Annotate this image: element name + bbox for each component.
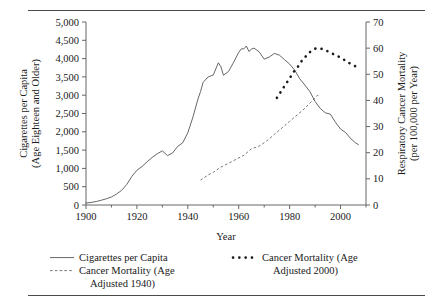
- legend-label: Cancer Mortality (Age: [262, 252, 358, 264]
- y-tick-label: 3,500: [55, 72, 79, 83]
- series-solid: [86, 46, 358, 203]
- series-dashed: [201, 95, 321, 180]
- y-tick-label: 1,000: [55, 163, 79, 174]
- legend-label: Cancer Mortality (Age: [79, 265, 175, 277]
- y2-tick-label: 50: [373, 69, 384, 80]
- x-tick-label: 2000: [330, 211, 351, 222]
- y2-tick-label: 70: [373, 17, 384, 28]
- y2-tick-label: 0: [373, 200, 378, 211]
- x-tick-label: 1900: [76, 211, 97, 222]
- legend-label-line2: Adjusted 2000): [273, 265, 339, 277]
- chart-series: [86, 46, 358, 203]
- y2-axis-title-line1: Respiratory Cancer Mortality: [396, 51, 407, 175]
- y-tick-label: 4,500: [55, 35, 79, 46]
- y-axis-title-line1: Cigarettes per Capita: [18, 69, 29, 158]
- y-tick-label: 1,500: [55, 145, 79, 156]
- legend-entry[interactable]: Cancer Mortality (AgeAdjusted 2000): [233, 252, 358, 277]
- x-tick-label: 1980: [279, 211, 300, 222]
- y2-axis-title-line2: (per 100,000 per Year): [408, 66, 420, 161]
- y-tick-label: 0: [74, 200, 79, 211]
- legend-entry[interactable]: Cancer Mortality (AgeAdjusted 1940): [50, 265, 175, 290]
- x-axis-title: Year: [216, 231, 236, 242]
- chart-axes: [86, 22, 366, 205]
- chart-legend: Cigarettes per CapitaCancer Mortality (A…: [50, 252, 358, 290]
- y-tick-label: 2,500: [55, 108, 79, 119]
- chart-tick-labels: 05001,0001,5002,0002,5003,0003,5004,0004…: [55, 17, 383, 222]
- y2-axis-title: Respiratory Cancer Mortality (per 100,00…: [396, 51, 420, 175]
- y2-tick-label: 60: [373, 43, 384, 54]
- y-tick-label: 500: [63, 181, 79, 192]
- series-dotted: [277, 48, 358, 98]
- legend-label-line2: Adjusted 1940): [90, 278, 156, 290]
- y2-tick-label: 20: [373, 147, 384, 158]
- legend-entry[interactable]: Cigarettes per Capita: [50, 252, 168, 263]
- y-tick-label: 5,000: [55, 17, 79, 28]
- line-chart: 05001,0001,5002,0002,5003,0003,5004,0004…: [0, 12, 439, 295]
- y2-tick-label: 10: [373, 173, 384, 184]
- y2-tick-label: 40: [373, 95, 384, 106]
- figure-page: 05001,0001,5002,0002,5003,0003,5004,0004…: [0, 0, 439, 308]
- left-bottom-axis: [86, 22, 366, 205]
- x-tick-label: 1920: [126, 211, 147, 222]
- legend-label: Cigarettes per Capita: [79, 252, 168, 263]
- y2-tick-label: 30: [373, 121, 384, 132]
- x-tick-label: 1960: [228, 211, 249, 222]
- y-tick-label: 2,000: [55, 126, 79, 137]
- top-horizontal-rule: [28, 10, 425, 11]
- chart-figure: 05001,0001,5002,0002,5003,0003,5004,0004…: [0, 12, 439, 295]
- y-axis-title-line2: (Age Eighteen and Older): [30, 59, 42, 168]
- y-axis-title: Cigarettes per Capita (Age Eighteen and …: [18, 59, 42, 168]
- x-tick-label: 1940: [177, 211, 198, 222]
- y-tick-label: 3,000: [55, 90, 79, 101]
- y-tick-label: 4,000: [55, 53, 79, 64]
- bottom-horizontal-rule: [28, 295, 425, 296]
